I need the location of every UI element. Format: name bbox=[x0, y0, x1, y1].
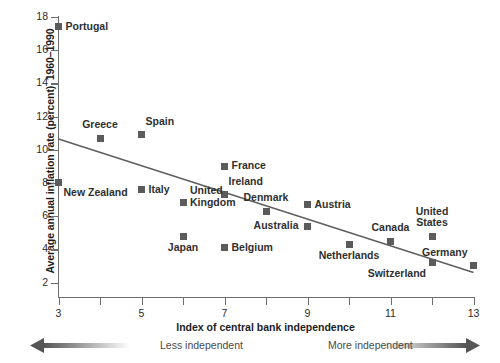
data-point-label: Spain bbox=[146, 116, 175, 128]
data-point-label: Belgium bbox=[232, 242, 273, 254]
data-point-label: United Kingdom bbox=[190, 185, 236, 208]
data-point-label: United States bbox=[416, 206, 449, 229]
data-point[interactable] bbox=[429, 259, 436, 266]
data-point[interactable] bbox=[304, 201, 311, 208]
data-point-label: Austria bbox=[315, 199, 351, 211]
data-point[interactable] bbox=[346, 241, 353, 248]
data-point-label: New Zealand bbox=[64, 187, 128, 199]
data-point-label: Germany bbox=[422, 247, 468, 259]
data-point[interactable] bbox=[221, 163, 228, 170]
data-point[interactable] bbox=[55, 23, 62, 30]
data-point[interactable] bbox=[304, 223, 311, 230]
data-point[interactable] bbox=[221, 244, 228, 251]
data-point[interactable] bbox=[180, 199, 187, 206]
data-point[interactable] bbox=[470, 262, 477, 269]
data-point-label: Portugal bbox=[66, 21, 109, 33]
scatter-chart: Average annual inflation rate (percent),… bbox=[0, 0, 500, 363]
data-point-label: Japan bbox=[168, 242, 198, 254]
data-point[interactable] bbox=[138, 186, 145, 193]
data-point[interactable] bbox=[387, 238, 394, 245]
data-point-label: Italy bbox=[149, 184, 170, 196]
more-independent-label: More independent bbox=[328, 339, 413, 351]
data-point-label: Netherlands bbox=[319, 250, 380, 262]
data-point-label: Denmark bbox=[244, 192, 289, 204]
data-point[interactable] bbox=[97, 135, 104, 142]
data-point-label: Greece bbox=[82, 119, 118, 131]
data-point-label: Switzerland bbox=[368, 268, 426, 280]
data-point[interactable] bbox=[263, 208, 270, 215]
data-point[interactable] bbox=[138, 131, 145, 138]
data-point-label: Canada bbox=[372, 222, 410, 234]
less-independent-label: Less independent bbox=[160, 339, 243, 351]
data-point[interactable] bbox=[429, 233, 436, 240]
data-point-label: Australia bbox=[254, 220, 299, 232]
independence-scale: Less independent More independent bbox=[30, 336, 480, 360]
data-point[interactable] bbox=[55, 179, 62, 186]
data-point[interactable] bbox=[180, 233, 187, 240]
data-point-label: France bbox=[232, 160, 266, 172]
